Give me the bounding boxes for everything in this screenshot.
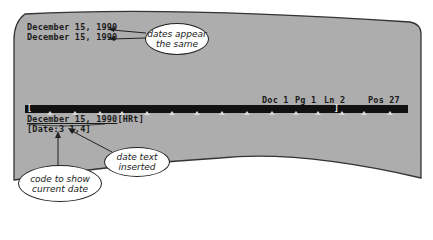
callout-text: current date — [32, 184, 88, 194]
callout-code-date: code to show current date — [18, 165, 102, 202]
left-margin-marker[interactable]: [ — [27, 104, 32, 113]
tab-stop-marker[interactable] — [144, 111, 150, 115]
tab-stop-marker[interactable] — [269, 111, 275, 115]
tab-stop-marker[interactable] — [169, 111, 175, 115]
reveal-codes-line-1: December 15, 1990[HRt] — [27, 114, 144, 124]
callout-text: the same — [156, 39, 198, 49]
tab-ruler[interactable]: [ ] — [25, 105, 408, 113]
tab-stop-marker[interactable] — [361, 111, 367, 115]
tab-stop-marker[interactable] — [244, 111, 250, 115]
tab-stop-marker[interactable] — [194, 111, 200, 115]
callout-text: code to show — [30, 174, 90, 184]
status-position: Pos 27 — [368, 95, 400, 105]
tab-stop-marker[interactable] — [339, 111, 345, 115]
tab-stop-marker[interactable] — [293, 111, 299, 115]
callout-text: inserted — [119, 162, 156, 172]
status-page: Pg 1 — [295, 95, 316, 105]
hard-return-code: [HRt] — [117, 114, 144, 124]
date-code: [Date:3 1,4] — [27, 124, 91, 134]
document-line-1: December 15, 1990 — [27, 22, 117, 32]
tab-stop-marker[interactable] — [219, 111, 225, 115]
status-doc: Doc 1 — [262, 95, 289, 105]
callout-date-inserted: date text inserted — [104, 147, 170, 177]
callout-dates-same: dates appear the same — [145, 23, 209, 55]
document-line-2: December 15, 1990 — [27, 32, 117, 42]
date-text: December 15, 1990 — [27, 114, 117, 124]
tab-stop-marker[interactable] — [315, 111, 321, 115]
callout-text: dates appear — [147, 29, 207, 39]
callout-text: date text — [116, 152, 157, 162]
tab-stop-marker[interactable] — [387, 111, 393, 115]
